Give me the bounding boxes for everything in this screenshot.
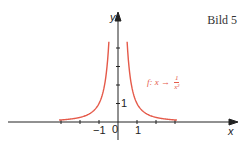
fraction-numerator: 1 (174, 74, 179, 83)
fraction-denominator: x² (174, 83, 179, 91)
function-prefix: f: x → (147, 77, 170, 87)
origin-label: 0 (112, 124, 118, 135)
function-annotation: f: x → 1 x² (147, 74, 179, 91)
x-tick-label-neg1: −1 (93, 125, 106, 136)
x-tick-label-1: 1 (135, 125, 141, 136)
y-tick-label-1: 1 (121, 98, 127, 109)
y-axis-label: y (110, 12, 116, 23)
curve-left-branch (59, 42, 109, 120)
figure-title: Bild 5 (207, 13, 237, 28)
x-axis-label: x (228, 126, 234, 137)
function-fraction: 1 x² (174, 74, 179, 91)
